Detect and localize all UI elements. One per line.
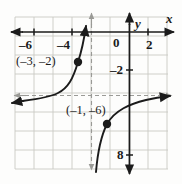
point-left-branch [74,58,82,66]
coordinate-plane [0,0,182,184]
y-tick-label-neg2: –2 [110,63,123,76]
point-label-left: (–3, –2) [16,55,56,68]
y-axis-label: y [135,17,141,30]
point-label-right: (–1, –6) [66,104,106,117]
x-tick-label-neg6: –6 [19,38,32,51]
x-tick-label-neg4: –4 [57,38,70,51]
graph-figure: –6 –4 2 0 –2 8 y x (–3, –2) (–1, –6) [0,0,182,184]
x-axis-label: x [166,12,173,25]
point-right-branch [103,120,111,128]
x-tick-label-2: 2 [146,38,153,51]
x-axis [11,29,174,36]
origin-label: 0 [113,36,120,49]
curve-right-branch [96,96,170,172]
y-tick-label-neg8: 8 [117,148,124,161]
